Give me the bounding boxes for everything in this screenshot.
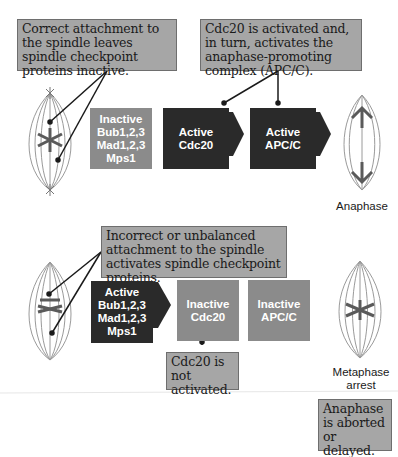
box-active-checkpoint-proteins: Active Bub1,2,3 Mad1,2,3 Mps1 — [91, 281, 153, 343]
callout-correct-attachment: Correct attachment to the spindle leaves… — [17, 19, 177, 71]
box-inactive-cdc20: Inactive Cdc20 — [177, 280, 239, 341]
box-active-apc-c: Active APC/C — [250, 108, 316, 169]
label-anaphase: Anaphase — [330, 200, 394, 213]
callout-cdc20-activated: Cdc20 is activated and, in turn, activat… — [200, 19, 362, 71]
box-inactive-apc-c: Inactive APC/C — [248, 280, 310, 341]
callout-anaphase-aborted: Anaphase is aborted or delayed. — [318, 399, 392, 451]
callout-cdc20-not-activated: Cdc20 is not activated. — [166, 352, 239, 390]
arrow-top-2-icon — [315, 112, 331, 156]
box-label: Inactive Cdc20 — [187, 298, 230, 324]
label-metaphase-arrest: Metaphase arrest — [326, 366, 396, 392]
box-label: Active Cdc20 — [179, 126, 214, 152]
arrow-top-1-icon — [228, 112, 244, 156]
box-active-cdc20: Active Cdc20 — [163, 108, 229, 169]
box-label: Active APC/C — [265, 126, 301, 152]
box-inactive-checkpoint-proteins: Inactive Bub1,2,3 Mad1,2,3 Mps1 — [90, 108, 152, 169]
arrow-bottom-icon — [152, 282, 171, 328]
chromosome-metaphase-arrest-icon — [346, 300, 374, 320]
box-label: Inactive APC/C — [258, 298, 301, 324]
callout-incorrect-attachment: Incorrect or unbalanced attachment to th… — [101, 226, 287, 278]
box-label: Active Bub1,2,3 Mad1,2,3 Mps1 — [98, 286, 147, 338]
box-label: Inactive Bub1,2,3 Mad1,2,3 Mps1 — [97, 113, 146, 165]
